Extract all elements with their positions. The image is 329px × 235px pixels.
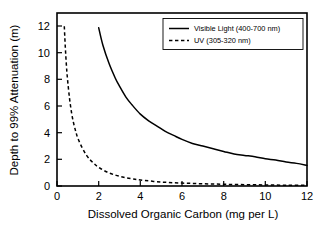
x-tick-label-2: 2 [96,190,102,202]
x-axis-title: Dissolved Organic Carbon (mg per L) [88,208,279,220]
y-tick-label-2: 2 [44,153,50,165]
x-tick-label-8: 8 [221,190,227,202]
y-tick-label-4: 4 [44,127,50,139]
x-tick-label-0: 0 [54,190,60,202]
x-tick-label-4: 4 [137,190,143,202]
y-tick-label-6: 6 [44,100,50,112]
y-tick-label-12: 12 [38,20,50,32]
legend-label-uv: UV (305-320 nm) [194,36,251,45]
legend-label-visible-light: Visible Light (400-700 nm) [194,24,280,33]
series-uv [64,26,307,185]
y-tick-label-10: 10 [38,47,50,59]
x-tick-label-12: 12 [301,190,313,202]
y-axis-title: Depth to 99% Attenuation (m) [8,24,20,175]
y-tick-label-0: 0 [44,180,50,192]
chart-figure: 0 2 4 6 8 10 12 0 2 4 6 8 10 12 Dissolve… [0,0,329,235]
x-tick-label-10: 10 [259,190,271,202]
chart-canvas: 0 2 4 6 8 10 12 0 2 4 6 8 10 12 Dissolve… [0,0,329,235]
x-tick-label-6: 6 [179,190,185,202]
chart-legend: Visible Light (400-700 nm) UV (305-320 n… [163,19,303,50]
y-tick-label-8: 8 [44,73,50,85]
